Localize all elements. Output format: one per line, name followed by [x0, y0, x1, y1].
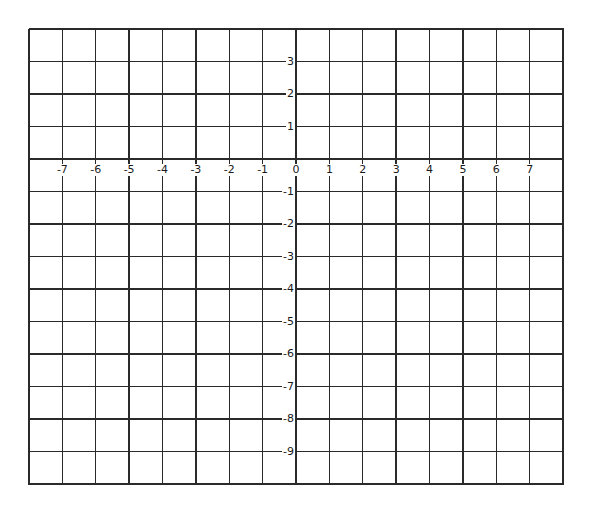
x-axis-tick-label: -6 — [89, 164, 102, 176]
grid-horizontal-line — [29, 256, 564, 257]
y-axis-tick-label: 1 — [286, 121, 295, 133]
x-axis-tick-label: -2 — [223, 164, 236, 176]
x-axis-tick-label: 6 — [492, 164, 501, 176]
grid-horizontal-line — [29, 288, 564, 289]
grid-horizontal-line — [29, 386, 564, 387]
x-axis-tick-label: -4 — [156, 164, 169, 176]
x-axis-tick-label: -1 — [256, 164, 269, 176]
coordinate-grid: -7-6-5-4-3-2-101234567321-1-2-3-4-5-6-7-… — [0, 0, 595, 509]
x-axis-tick-label: 4 — [425, 164, 434, 176]
grid-horizontal-line — [29, 61, 564, 62]
grid-horizontal-line — [29, 191, 564, 192]
grid-horizontal-line — [29, 93, 564, 94]
x-axis-tick-label: 3 — [392, 164, 401, 176]
grid-horizontal-line — [29, 418, 564, 419]
y-axis-tick-label: -5 — [282, 316, 295, 328]
grid-horizontal-line — [29, 158, 564, 159]
y-axis-tick-label: -3 — [282, 251, 295, 263]
x-axis-tick-label: 5 — [458, 164, 467, 176]
grid-horizontal-line — [29, 483, 564, 484]
y-axis-tick-label: -2 — [282, 218, 295, 230]
x-axis-tick-label: 2 — [358, 164, 367, 176]
y-axis-tick-label: -4 — [282, 283, 295, 295]
y-axis-tick-label: -8 — [282, 413, 295, 425]
grid-horizontal-line — [29, 353, 564, 354]
y-axis-tick-label: 3 — [286, 56, 295, 68]
x-axis-tick-label: -3 — [189, 164, 202, 176]
y-axis-tick-label: 2 — [286, 88, 295, 100]
grid-horizontal-line — [29, 321, 564, 322]
x-axis-tick-label: -7 — [56, 164, 69, 176]
y-axis-tick-label: -1 — [282, 186, 295, 198]
grid-horizontal-line — [29, 223, 564, 224]
grid-horizontal-line — [29, 126, 564, 127]
x-axis-tick-label: 7 — [525, 164, 534, 176]
grid-horizontal-line — [29, 28, 564, 29]
y-axis-tick-label: -6 — [282, 348, 295, 360]
grid-horizontal-line — [29, 451, 564, 452]
y-axis-tick-label: -7 — [282, 381, 295, 393]
y-axis-tick-label: -9 — [282, 446, 295, 458]
x-axis-tick-label: 1 — [325, 164, 334, 176]
x-axis-tick-label: 0 — [292, 164, 301, 176]
x-axis-tick-label: -5 — [123, 164, 136, 176]
